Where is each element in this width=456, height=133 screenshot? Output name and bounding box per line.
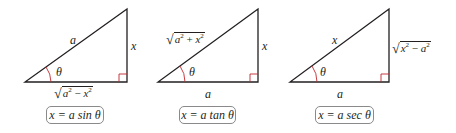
formula-box-sec: x = a sec θ (315, 106, 374, 124)
right-angle-marker (250, 74, 258, 82)
right-angle-marker (381, 74, 389, 82)
angle-label: θ (56, 66, 62, 78)
angle-arc (180, 66, 185, 82)
formula-box-sin: x = a sin θ (46, 106, 104, 124)
angle-arc (46, 67, 51, 82)
formula-box-tan: x = a tan θ (179, 106, 236, 124)
hypotenuse-label: x (332, 34, 337, 46)
angle-label: θ (320, 66, 326, 78)
opposite-radical-label: √x2 − a2 (392, 42, 431, 55)
angle-label: θ (189, 66, 195, 78)
right-angle-marker (119, 74, 127, 82)
adjacent-label: a (337, 88, 343, 100)
angle-arc (312, 66, 317, 82)
hypotenuse-label: a (70, 34, 76, 46)
adjacent-label: a (205, 88, 211, 100)
triangle-1 (25, 9, 127, 82)
adjacent-radical-label: √a2 − x2 (54, 87, 93, 100)
triangle-3 (290, 9, 389, 82)
opposite-label: x (131, 40, 136, 52)
hypotenuse-radical-label: √a2 + x2 (166, 33, 205, 46)
opposite-label: x (262, 40, 267, 52)
